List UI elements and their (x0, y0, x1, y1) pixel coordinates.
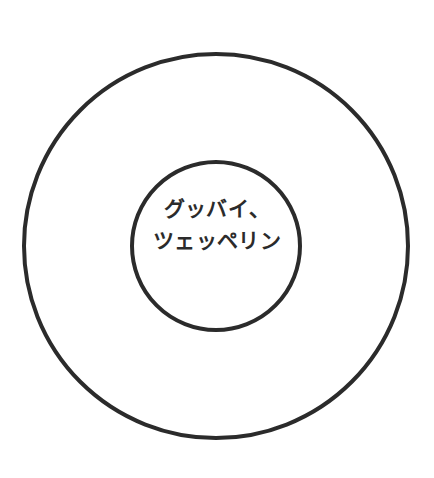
emblem-canvas: グッバイ、 ツェッペリン (0, 0, 434, 478)
concentric-circles-graphic (0, 0, 434, 478)
inner-circle (132, 162, 300, 330)
